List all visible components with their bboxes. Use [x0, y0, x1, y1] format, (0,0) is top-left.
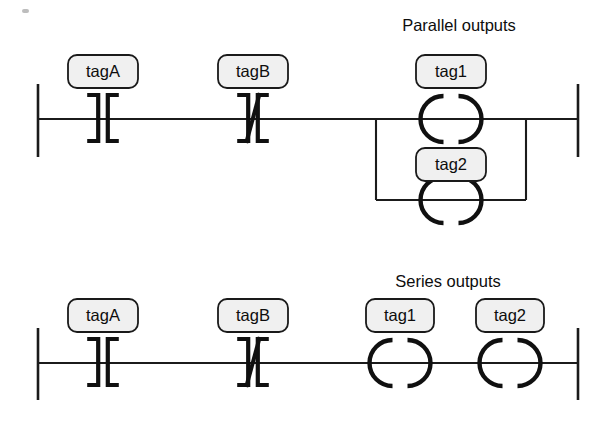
rung-caption: Parallel outputs — [402, 16, 516, 34]
ladder-logic-diagram: tagAtagBtag1tag2Parallel outputstagAtagB… — [0, 0, 610, 427]
tag-box-tag1[interactable]: tag1 — [416, 55, 486, 88]
tag-box-tag2[interactable]: tag2 — [416, 148, 486, 181]
tag-box-tagB[interactable]: tagB — [218, 55, 288, 88]
tag-box-label: tagB — [236, 62, 270, 80]
rung-caption: Series outputs — [395, 272, 500, 290]
tag-box-tagA[interactable]: tagA — [68, 55, 138, 88]
tag-box-tag1[interactable]: tag1 — [366, 299, 434, 332]
tag-box-tag2[interactable]: tag2 — [476, 299, 544, 332]
tag-box-label: tag1 — [384, 306, 416, 324]
tag-box-label: tagA — [86, 306, 120, 324]
ladder-canvas: tagAtagBtag1tag2Parallel outputstagAtagB… — [0, 0, 610, 427]
tag-box-label: tag2 — [435, 155, 467, 173]
tag-box-label: tag2 — [494, 306, 526, 324]
tag-box-tagB[interactable]: tagB — [218, 299, 288, 332]
scan-artifact-speck — [22, 9, 29, 13]
tag-box-label: tag1 — [435, 62, 467, 80]
tag-box-label: tagB — [236, 306, 270, 324]
tag-box-label: tagA — [86, 62, 120, 80]
tag-box-tagA[interactable]: tagA — [68, 299, 138, 332]
